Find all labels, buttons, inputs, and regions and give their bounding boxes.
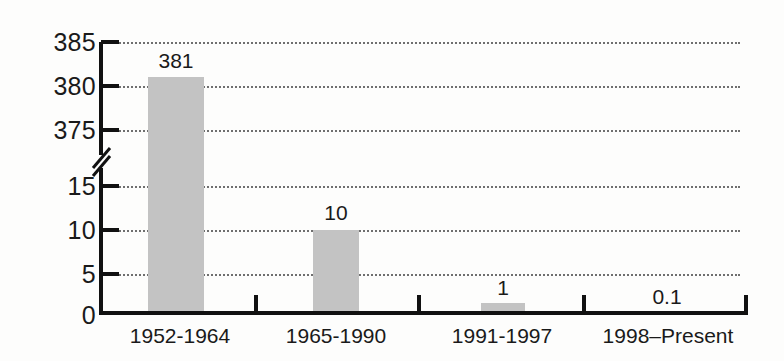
value-label-1991-1997: 1 — [463, 277, 543, 298]
x-tick-label-1998-present: 1998–Present — [590, 325, 746, 346]
value-label-1965-1990: 10 — [296, 202, 376, 223]
bar-chart: 385 380 375 15 10 5 0 — [0, 0, 784, 361]
x-tick-label-1952-1964: 1952-1964 — [106, 325, 254, 346]
value-label-1998-present: 0.1 — [627, 286, 707, 307]
x-tick-label-1965-1990: 1965-1990 — [262, 325, 410, 346]
x-tick-label-1991-1997: 1991-1997 — [428, 325, 576, 346]
value-label-1952-1964: 381 — [136, 50, 216, 71]
